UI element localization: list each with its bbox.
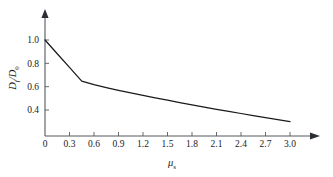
x-axis-tick-label: 0.3 — [64, 139, 76, 149]
x-axis-tick-label: 2.4 — [235, 139, 247, 149]
y-axis-tick-label: 0.6 — [27, 82, 39, 92]
y-axis-ticks — [45, 40, 49, 110]
x-axis-tick-label: 0.6 — [88, 139, 100, 149]
chart-figure: 00.30.60.91.21.51.82.12.42.73.0 0.40.60.… — [0, 0, 333, 177]
y-axis-tick-labels: 0.40.60.81.0 — [27, 35, 39, 115]
x-axis-tick-labels: 00.30.60.91.21.51.82.12.42.73.0 — [43, 139, 297, 149]
chart-plot-area: 00.30.60.91.21.51.82.12.42.73.0 0.40.60.… — [0, 0, 333, 177]
x-axis-tick-label: 2.1 — [211, 139, 223, 149]
data-series-line — [45, 40, 290, 122]
x-axis-tick-label: 1.2 — [137, 139, 149, 149]
y-axis-tick-label: 1.0 — [27, 35, 39, 45]
x-axis-tick-label: 0 — [43, 139, 48, 149]
x-axis-arrow-icon — [310, 132, 320, 139]
x-axis-tick-label: 1.8 — [186, 139, 198, 149]
y-axis-tick-label: 0.8 — [27, 59, 39, 69]
y-axis-arrow-icon — [41, 9, 48, 18]
y-axis-tick-label: 0.4 — [27, 105, 39, 115]
x-axis-tick-label: 1.5 — [162, 139, 174, 149]
x-axis-tick-label: 2.7 — [260, 139, 272, 149]
x-axis-tick-label: 3.0 — [284, 139, 296, 149]
x-axis-ticks — [70, 132, 291, 136]
x-axis-tick-label: 0.9 — [113, 139, 125, 149]
y-axis-title: Df/D0 — [7, 66, 21, 91]
x-axis-title: μs — [167, 157, 176, 171]
